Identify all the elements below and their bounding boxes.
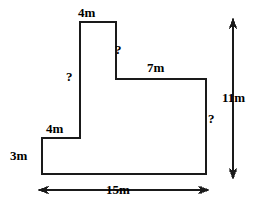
- label-width-dimension-15m: 15m: [106, 183, 130, 196]
- label-notch-right-edge-unknown: ?: [115, 43, 122, 56]
- label-notch-left-edge-unknown: ?: [66, 70, 73, 83]
- label-left-edge-3m: 3m: [10, 149, 27, 162]
- label-upper-horizontal-7m: 7m: [147, 61, 164, 74]
- label-far-right-edge-unknown: ?: [208, 112, 215, 125]
- label-step-horizontal-4m: 4m: [46, 122, 63, 135]
- shape-outline: [42, 22, 206, 174]
- geometry-figure: 4m ? ? 7m 4m 3m ? 11m 15m: [0, 0, 259, 205]
- figure-canvas: [0, 0, 259, 205]
- label-top-edge-4m: 4m: [78, 6, 95, 19]
- label-height-dimension-11m: 11m: [222, 91, 245, 104]
